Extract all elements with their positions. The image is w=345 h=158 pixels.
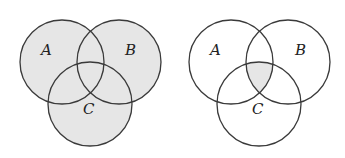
label-b: B <box>294 41 306 59</box>
label-a: A <box>39 41 52 59</box>
label-a: A <box>208 41 221 59</box>
venn-intersection-diagram: A B C <box>189 20 330 146</box>
venn-union-diagram: A B C <box>20 20 161 146</box>
venn-diagrams-canvas: A B C A B C <box>0 0 345 158</box>
label-b: B <box>124 41 136 59</box>
label-c: C <box>83 100 95 118</box>
union-fill <box>20 20 161 146</box>
label-c: C <box>252 100 264 118</box>
